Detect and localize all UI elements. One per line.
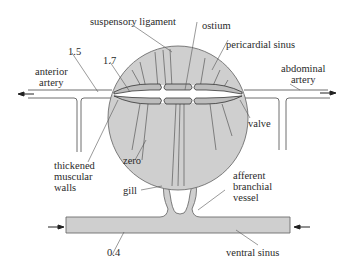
label-anterior-artery: anterior artery xyxy=(35,66,68,88)
label-thickened-muscular-walls: thickened muscular walls xyxy=(54,160,95,193)
label-suspensory-ligament: suspensory ligament xyxy=(90,16,176,27)
label-ostium: ostium xyxy=(202,20,231,31)
heart-circulation-diagram: suspensory ligament ostium pericardial s… xyxy=(0,0,356,263)
diagram-canvas xyxy=(0,0,356,263)
label-ventral-sinus: ventral sinus xyxy=(226,247,279,258)
heart xyxy=(108,46,248,190)
label-pressure-0-4: 0.4 xyxy=(107,247,120,258)
label-abdominal-artery: abdominal artery xyxy=(281,63,325,85)
label-pericardial-sinus: pericardial sinus xyxy=(226,39,295,50)
label-afferent-branchial-vessel: afferent branchial vessel xyxy=(233,170,272,203)
label-gill: gill xyxy=(123,185,137,196)
label-pressure-1-7: 1.7 xyxy=(103,55,116,66)
label-zero: zero xyxy=(123,155,141,166)
label-pressure-1-5: 1.5 xyxy=(68,46,81,57)
label-valve: valve xyxy=(248,118,271,129)
